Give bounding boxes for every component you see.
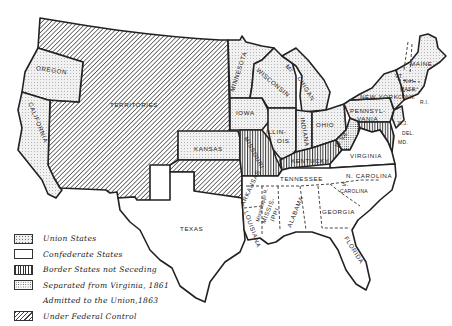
dense-dots-swatch-icon xyxy=(14,280,33,290)
label-maine: MAINE xyxy=(410,60,433,67)
legend-label: Confederate States xyxy=(43,250,123,259)
vertical-lines-swatch-icon xyxy=(14,265,33,275)
legend-item-west-virginia: Separated from Virginia, 1861 xyxy=(14,278,214,294)
legend-label: Separated from Virginia, 1861 xyxy=(43,281,169,290)
label-maryland: MD. xyxy=(398,139,408,145)
diagonal-hatch-swatch-icon xyxy=(14,311,33,321)
label-pennsylvania-2: VANIA xyxy=(357,115,378,122)
legend-label: Border States not Seceding xyxy=(43,265,157,274)
label-illinois-2: OIS xyxy=(277,137,289,144)
legend-item-union: Union States xyxy=(14,231,214,247)
label-vermont: VT. xyxy=(395,73,403,79)
label-new-york: NEW YORK xyxy=(360,93,399,100)
label-s-carolina-2: CAROLINA xyxy=(340,188,368,194)
blank-swatch-icon xyxy=(14,249,33,259)
label-rhode-island: R.I. xyxy=(420,99,429,105)
label-s-carolina-1: S. xyxy=(342,180,349,187)
label-new-hampshire: N.H. xyxy=(404,78,415,84)
label-ohio: OHIO xyxy=(316,121,334,128)
label-kentucky: KENTUCKY xyxy=(291,157,330,164)
label-georgia: GEORGIA xyxy=(322,208,355,215)
label-new-jersey: N.J. xyxy=(398,120,408,126)
label-iowa: IOWA xyxy=(236,109,255,116)
legend-label: Under Federal Control xyxy=(43,312,137,321)
region-confederate-south xyxy=(242,164,396,290)
legend-item-admitted: Admitted to the Union,1863 xyxy=(14,293,214,309)
empty-swatch-icon xyxy=(14,296,33,306)
label-virginia: VIRGINIA xyxy=(350,152,382,159)
legend-item-border: Border States not Seceding xyxy=(14,262,214,278)
label-pennsylvania-1: PENNSYL- xyxy=(350,107,386,114)
label-kansas: KANSAS xyxy=(194,145,223,152)
legend-label: Admitted to the Union,1863 xyxy=(43,296,158,305)
label-massachusetts: MASS. xyxy=(400,86,417,92)
label-tennessee: TENNESSEE xyxy=(280,175,323,182)
label-territories: TERRITORIES xyxy=(110,101,158,108)
legend-label: Union States xyxy=(43,234,96,243)
label-delaware: DEL. xyxy=(402,130,414,136)
label-illinois-1: ILLIN- xyxy=(266,128,286,135)
label-connecticut: CONN. xyxy=(398,94,416,100)
label-n-carolina: N. CAROLINA xyxy=(346,172,392,179)
union-dots-swatch-icon xyxy=(14,234,33,244)
legend-item-confederate: Confederate States xyxy=(14,247,214,263)
legend-item-federal: Under Federal Control xyxy=(14,309,214,325)
map-legend: Union States Confederate States Border S… xyxy=(14,231,214,324)
